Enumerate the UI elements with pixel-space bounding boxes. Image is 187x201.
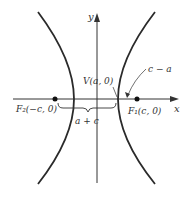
- focus-f2-point: [53, 97, 58, 102]
- vertex-leader-line: [113, 87, 117, 97]
- c-minus-a-arrow: [128, 69, 146, 95]
- focus-f1-point: [135, 97, 140, 102]
- focus-f1-label: F₁(c, 0): [127, 106, 162, 116]
- c-minus-a-label: c − a: [148, 64, 172, 74]
- a-plus-c-brace: [58, 103, 116, 112]
- x-axis-label: x: [174, 103, 180, 114]
- y-axis-label: y: [87, 11, 94, 22]
- focus-f2-label: F₂(−c, 0): [15, 104, 57, 114]
- vertex-label: V(a, 0): [83, 76, 114, 86]
- a-plus-c-label: a + c: [75, 116, 99, 126]
- y-axis: y: [87, 11, 100, 183]
- hyperbola-diagram: y x F₂(−c, 0) F₁(c, 0) V(a, 0) c − a a +…: [0, 0, 187, 201]
- y-axis-arrow-icon: [94, 13, 100, 22]
- x-axis-arrow-icon: [170, 96, 179, 102]
